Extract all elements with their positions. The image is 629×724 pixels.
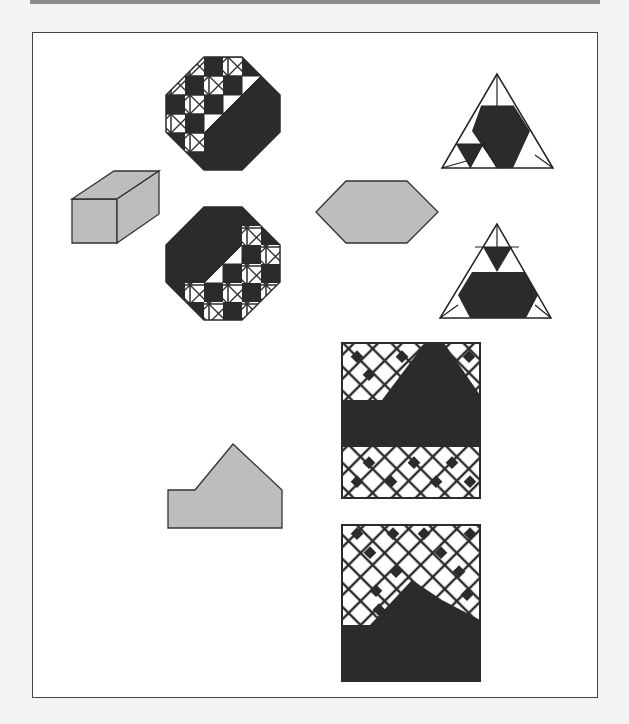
pentagon	[168, 444, 282, 528]
octagon-bottom	[166, 207, 280, 321]
hexagon	[316, 181, 438, 243]
triangle-bottom	[440, 224, 551, 318]
rect-pattern-top	[342, 343, 480, 498]
triangle-top	[442, 74, 553, 168]
prism	[72, 171, 159, 243]
rect-pattern-bottom	[342, 525, 480, 681]
figure-canvas	[0, 0, 629, 724]
octagon-top	[166, 57, 280, 170]
